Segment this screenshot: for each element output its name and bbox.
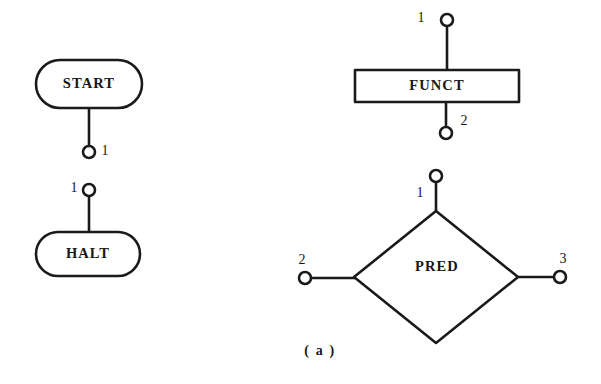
port-label-pred-port-2: 2 [299, 252, 306, 267]
port-label-pred-port-3: 3 [560, 251, 567, 266]
port-label-pred-port-1: 1 [417, 185, 424, 200]
port-terminal-funct-port-2 [440, 127, 452, 139]
port-label-funct-port-2: 2 [461, 113, 468, 128]
flowchart-diagram: STARTHALTFUNCTPRED 1112123 ( a ) [0, 0, 601, 384]
node-label-halt: HALT [66, 245, 110, 261]
port-terminal-pred-port-1 [430, 170, 442, 182]
node-label-funct: FUNCT [409, 77, 464, 93]
figure-caption: ( a ) [304, 343, 335, 359]
figure-root: STARTHALTFUNCTPRED 1112123 ( a ) [0, 0, 601, 384]
port-terminal-pred-port-3 [554, 271, 566, 283]
port-terminal-pred-port-2 [299, 272, 311, 284]
port-label-start-port-1: 1 [102, 143, 109, 158]
node-label-start: START [63, 75, 115, 91]
port-terminal-start-port-1 [83, 146, 95, 158]
port-label-halt-port-1: 1 [71, 180, 78, 195]
port-label-funct-port-1: 1 [418, 10, 425, 25]
port-terminal-funct-port-1 [441, 14, 453, 26]
port-terminal-halt-port-1 [83, 184, 95, 196]
node-label-pred: PRED [415, 258, 459, 274]
